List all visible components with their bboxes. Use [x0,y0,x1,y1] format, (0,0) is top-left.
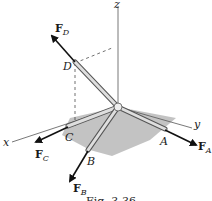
point-label-a: A [159,135,168,148]
point-label-d: D [62,60,72,73]
ground-shaded-region [62,107,176,156]
force-arrow-fa [165,130,196,145]
figure-caption: Fig. 3-36 [86,195,136,201]
member-od [75,62,118,107]
force-label-fd: FD [55,22,70,37]
z-axis-label: z [113,0,120,11]
figure-3-36: z x y D C B A FD FC FB FA Fig. 3-36 [0,0,212,201]
point-label-b: B [86,155,95,168]
center-joint [114,103,122,111]
point-label-c: C [65,131,74,144]
y-axis-label: y [193,118,201,131]
force-label-fa: FA [198,140,212,155]
dashed-line-d-horizontal [75,48,112,63]
force-label-fb: FB [73,182,87,197]
x-axis-label: x [3,136,10,149]
force-arrow-fd [52,36,75,62]
force-label-fc: FC [35,148,49,163]
force-diagram: z x y D C B A FD FC FB FA Fig. 3-36 [0,0,212,201]
force-arrow-fb [70,151,88,181]
